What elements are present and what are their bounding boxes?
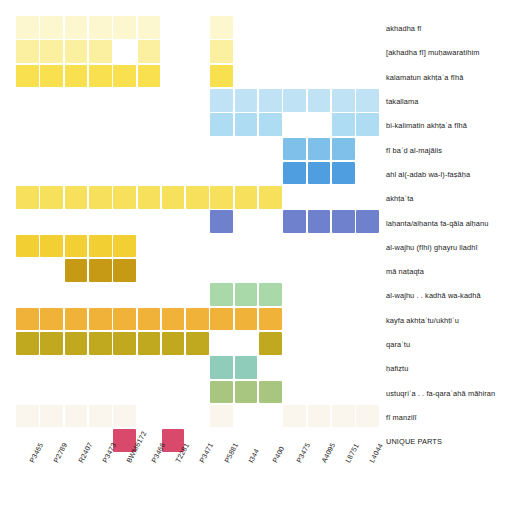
heatmap-cell [210, 186, 233, 209]
heatmap-cell [65, 65, 88, 88]
heatmap-cell [89, 332, 112, 355]
row-label: kayfa akhṭaʾtu/ukhṭiʾu [386, 317, 459, 324]
heatmap-cell [89, 65, 112, 88]
heatmap-cell [186, 308, 209, 331]
heatmap-cell [162, 308, 185, 331]
row-label: [akhadha fī] muḥawaratihim [386, 49, 479, 56]
heatmap-cell [259, 332, 282, 355]
heatmap-cell [40, 65, 63, 88]
heatmap-cell [356, 210, 379, 233]
column-label: L8751 [345, 443, 361, 465]
heatmap-cell [210, 89, 233, 112]
heatmap-cell [65, 259, 88, 282]
heatmap-cell [210, 308, 233, 331]
heatmap-cell [40, 332, 63, 355]
heatmap-cell [210, 16, 233, 39]
heatmap-cell [283, 162, 306, 185]
heatmap-cell [235, 381, 258, 404]
heatmap-cell [186, 332, 209, 355]
heatmap-cell [332, 210, 355, 233]
heatmap-cell [235, 186, 258, 209]
heatmap-cell [138, 332, 161, 355]
heatmap-cell [16, 405, 39, 428]
column-label: P400 [272, 446, 286, 465]
heatmap-cell [162, 332, 185, 355]
row-label: ustuqriʾa . . fa-qaraʾahā māhiran [386, 390, 495, 397]
heatmap-cell [16, 308, 39, 331]
row-label: laḥanta/alḥanta fa-qāla alḥanu [386, 220, 488, 227]
heatmap-cell [138, 16, 161, 39]
column-label: A4095 [321, 442, 337, 464]
heatmap-cell [89, 186, 112, 209]
column-label: R2407 [78, 442, 95, 465]
heatmap-cell [356, 89, 379, 112]
heatmap-cell [16, 235, 39, 258]
heatmap-cell [40, 40, 63, 63]
heatmap-cell [235, 89, 258, 112]
heatmap-cell [259, 89, 282, 112]
row-label: ḥafiẓtu [386, 365, 408, 372]
row-label: bi-kalimatin akhṭaʾa fīhā [386, 122, 467, 129]
row-label: kalamatun akhṭaʾa fīhā [386, 74, 463, 81]
heatmap-cell [89, 259, 112, 282]
heatmap-cell [259, 113, 282, 136]
heatmap-cell [210, 405, 233, 428]
heatmap-cell [356, 113, 379, 136]
column-label: I344 [248, 448, 261, 464]
heatmap-cell [308, 210, 331, 233]
heatmap-cell [16, 65, 39, 88]
heatmap-cell [332, 138, 355, 161]
heatmap-cell [113, 332, 136, 355]
column-label: L4044 [369, 443, 385, 465]
heatmap-cell [235, 283, 258, 306]
heatmap-cell [235, 356, 258, 379]
heatmap-cell [65, 40, 88, 63]
row-label: al-wajhu (fīhi) ghayru lladhī [386, 244, 478, 251]
heatmap-chart: akhadha fī[akhadha fī] muḥawaratihimkala… [0, 0, 509, 509]
heatmap-cell [332, 113, 355, 136]
heatmap-cell [65, 16, 88, 39]
heatmap-cell [65, 308, 88, 331]
heatmap-cell [16, 332, 39, 355]
heatmap-cell [65, 332, 88, 355]
heatmap-cell [16, 186, 39, 209]
heatmap-cell [40, 16, 63, 39]
row-label: al-wajhu . . kadhā wa-kadhā [386, 292, 481, 299]
heatmap-cell [89, 235, 112, 258]
heatmap-cell [113, 429, 136, 452]
heatmap-cell [113, 235, 136, 258]
heatmap-cell [283, 138, 306, 161]
heatmap-cell [40, 308, 63, 331]
heatmap-cell [210, 65, 233, 88]
column-label: P3465 [29, 442, 45, 464]
heatmap-cell [65, 186, 88, 209]
heatmap-cell [113, 186, 136, 209]
column-label: P2789 [53, 442, 69, 464]
heatmap-cell [186, 186, 209, 209]
row-label: fī baʿḍ al-majālis [386, 147, 442, 154]
heatmap-cell [308, 162, 331, 185]
heatmap-cell [356, 405, 379, 428]
heatmap-cell [89, 405, 112, 428]
row-label: akhadha fī [386, 25, 422, 32]
heatmap-cell [113, 16, 136, 39]
heatmap-cell [40, 186, 63, 209]
row-label: fī manzilī [386, 414, 417, 421]
heatmap-cell [40, 235, 63, 258]
heatmap-cell [259, 381, 282, 404]
heatmap-cell [235, 308, 258, 331]
heatmap-cell [332, 405, 355, 428]
heatmap-cell [332, 162, 355, 185]
column-label: P3475 [296, 442, 312, 464]
heatmap-cell [283, 405, 306, 428]
heatmap-cell [138, 308, 161, 331]
row-label: mā naṭaqta [386, 268, 424, 275]
heatmap-cell [162, 186, 185, 209]
heatmap-cell [259, 186, 282, 209]
heatmap-cell [113, 259, 136, 282]
heatmap-cell [308, 405, 331, 428]
heatmap-cell [40, 405, 63, 428]
heatmap-cell [113, 308, 136, 331]
row-label: UNIQUE PARTS [386, 438, 442, 445]
heatmap-cell [308, 138, 331, 161]
